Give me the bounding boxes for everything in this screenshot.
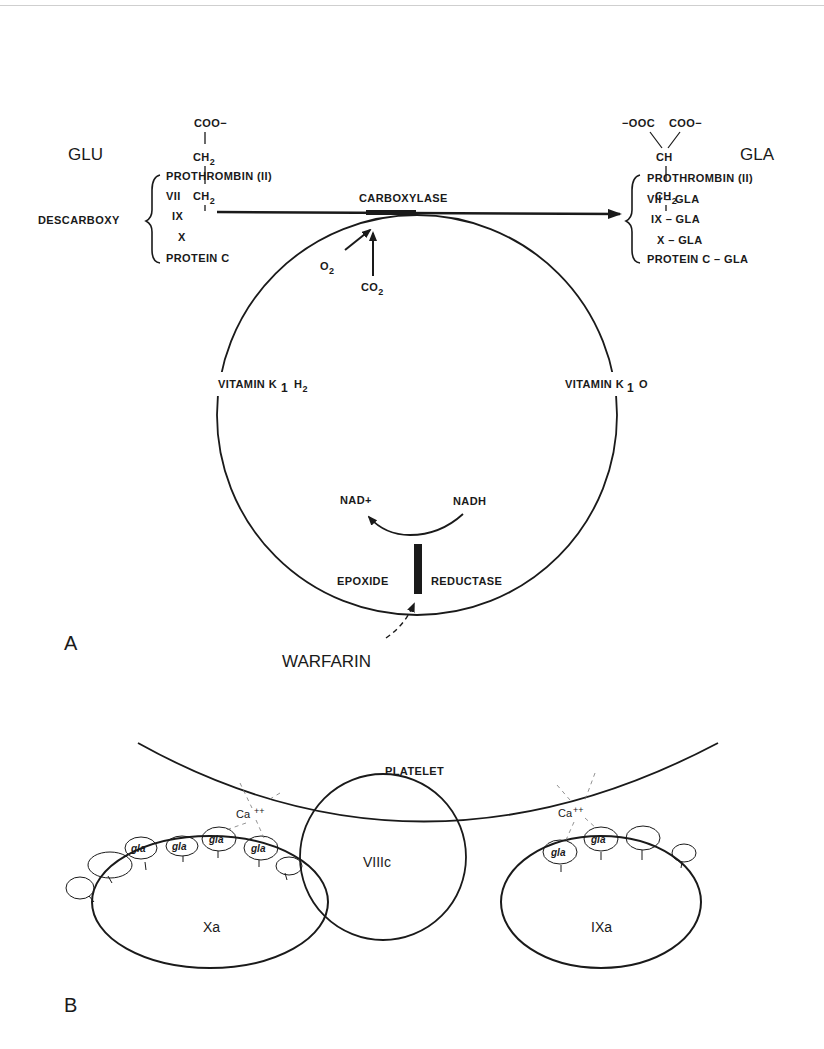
descarboxy-item: VII <box>166 190 181 202</box>
descarboxy-group: DESCARBOXY PROTHROMBIN (II) VII IX X PRO… <box>38 170 272 264</box>
panel-a-label: A <box>64 632 78 654</box>
factor-ixa-label: IXa <box>591 919 612 935</box>
factor-viiic-label: VIIIc <box>363 854 391 870</box>
carboxylated-item: IX – GLA <box>651 213 700 225</box>
right-brace <box>626 175 640 263</box>
gla-domain-empty <box>276 857 302 875</box>
carboxylated-item: X – GLA <box>657 234 703 246</box>
carboxylase-label: CARBOXYLASE <box>359 192 448 204</box>
gla-coo: COO− <box>669 117 702 129</box>
descarboxy-item: X <box>178 231 186 243</box>
nad-plus-label: NAD+ <box>340 494 372 506</box>
xa-calcium-label: Ca++ <box>236 806 265 820</box>
panel-b-label: B <box>64 994 77 1016</box>
descarboxy-item: PROTEIN C <box>166 252 230 264</box>
carboxylated-item: VII – GLA <box>647 193 700 205</box>
descarboxy-item: IX <box>172 210 183 222</box>
gla-text: gla <box>130 843 146 854</box>
epoxide-reductase-bar <box>414 544 422 594</box>
carboxylase-enzyme-bar <box>366 210 416 215</box>
gla-domain-empty <box>88 852 132 878</box>
nadh-to-nad-arrow <box>369 514 463 535</box>
carboxylated-item: PROTHROMBIN (II) <box>647 172 753 184</box>
warfarin-label: WARFARIN <box>282 652 371 671</box>
gla-text: gla <box>171 841 187 852</box>
gla-text: gla <box>250 843 266 854</box>
platelet-membrane <box>138 743 718 822</box>
gla-text: gla <box>590 834 606 845</box>
descarboxy-item: PROTHROMBIN (II) <box>166 170 272 182</box>
factor-xa-ellipse <box>92 836 328 968</box>
carboxylated-group: PROTHROMBIN (II) VII – GLA IX – GLA X – … <box>626 172 753 265</box>
gla-text: gla <box>550 847 566 858</box>
glu-structure: GLU COO− CH2 CH2 <box>68 117 227 211</box>
reductase-label: REDUCTASE <box>431 575 502 587</box>
o2-arrow <box>345 230 370 250</box>
gla-ooc: −OOC <box>622 117 655 129</box>
vitamin-k-cycle-figure: GLU COO− CH2 CH2 GLA −OOC COO− CH CH2 DE… <box>0 0 824 1049</box>
glu-label: GLU <box>68 145 103 164</box>
gla-ch: CH <box>656 151 673 163</box>
glu-coo: COO− <box>194 117 227 129</box>
left-brace <box>146 175 160 263</box>
gla-domain-empty <box>672 844 696 862</box>
co2-label: CO2 <box>361 281 384 297</box>
descarboxy-label: DESCARBOXY <box>38 214 120 226</box>
panel-a: GLU COO− CH2 CH2 GLA −OOC COO− CH CH2 DE… <box>38 117 775 671</box>
factor-xa-label: Xa <box>203 919 220 935</box>
o2-label: O2 <box>320 260 334 276</box>
warfarin-inhibition-arrow <box>386 604 414 638</box>
carboxylated-item: PROTEIN C – GLA <box>647 253 748 265</box>
panel-b: PLATELET VIIIc Xa IXa gla gla gla <box>64 743 718 1016</box>
glu-ch2-2: CH2 <box>193 190 215 206</box>
gla-domain-empty <box>66 877 94 899</box>
epoxide-label: EPOXIDE <box>337 575 389 587</box>
xa-calcium-bridges <box>226 783 280 838</box>
ixa-gla-domains: gla gla <box>543 826 696 872</box>
carboxylation-arrow <box>217 212 620 214</box>
glu-ch2-1: CH2 <box>193 151 215 167</box>
nadh-label: NADH <box>453 495 486 507</box>
gla-text: gla <box>208 834 224 845</box>
gla-label: GLA <box>740 145 775 164</box>
ixa-calcium-label: Ca++ <box>558 805 584 819</box>
